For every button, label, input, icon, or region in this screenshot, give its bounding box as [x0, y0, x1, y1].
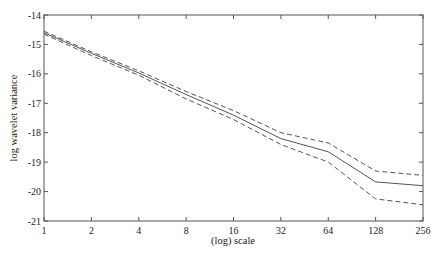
- y-axis-label: log wavelet variance: [8, 74, 19, 161]
- y-axis: -14-15-16-17-18-19-20-21: [28, 10, 423, 227]
- y-tick-label: -15: [28, 39, 41, 50]
- y-tick-label: -20: [28, 186, 41, 197]
- y-tick-label: -21: [28, 216, 41, 227]
- chart: 1248163264128256 -14-15-16-17-18-19-20-2…: [0, 0, 447, 258]
- y-tick-label: -14: [28, 10, 41, 21]
- plot-frame: [44, 15, 423, 221]
- x-tick-label: 4: [136, 225, 141, 236]
- x-tick-label: 32: [276, 225, 286, 236]
- y-tick-label: -19: [28, 157, 41, 168]
- confidence-bound-line: [44, 34, 423, 205]
- x-tick-label: 256: [416, 225, 431, 236]
- x-tick-label: 8: [184, 225, 189, 236]
- x-axis-label: (log) scale: [211, 235, 255, 247]
- x-tick-label: 1: [42, 225, 47, 236]
- y-tick-label: -18: [28, 127, 41, 138]
- x-tick-label: 64: [323, 225, 333, 236]
- y-tick-label: -17: [28, 98, 41, 109]
- series-layer: [44, 31, 423, 205]
- x-tick-label: 128: [368, 225, 383, 236]
- x-tick-label: 2: [89, 225, 94, 236]
- plot-border: [44, 15, 423, 221]
- y-tick-label: -16: [28, 68, 41, 79]
- confidence-bound-line: [44, 31, 423, 175]
- estimate-line: [44, 33, 423, 186]
- x-axis: 1248163264128256: [42, 15, 431, 236]
